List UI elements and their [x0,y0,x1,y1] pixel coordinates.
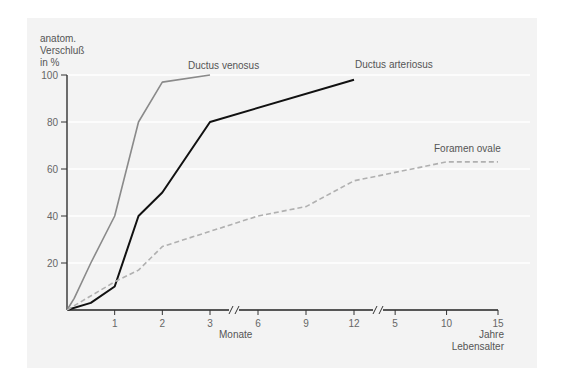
y-tick-label-20: 20 [47,258,59,269]
x-tick-label-5: 5 [392,318,398,329]
x-axis-label-years: Jahre [479,329,504,340]
x-tick-label-9: 9 [303,318,309,329]
legend-ductus-arteriosus: Ductus arteriosus [355,59,433,70]
legend-ductus-venosus: Ductus venosus [188,60,259,71]
y-axis-label-line-2: Verschluß [40,45,84,56]
x-axis-label-months: Monate [219,329,253,340]
y-tick-label-100: 100 [41,70,58,81]
y-tick-label-60: 60 [47,164,59,175]
y-axis-label-line-1: anatom. [40,33,76,44]
chart-panel [27,18,537,368]
legend-foramen-ovale: Foramen ovale [434,143,501,154]
y-axis-label-line-3: in % [40,57,60,68]
x-tick-label-2: 2 [160,318,166,329]
y-tick-label-40: 40 [47,211,59,222]
chart: 20406080100123691251015 anatom. Verschlu… [0,0,563,389]
x-tick-label-6: 6 [255,318,261,329]
y-tick-label-80: 80 [47,117,59,128]
x-tick-label-3: 3 [207,318,213,329]
x-tick-label-15: 15 [492,318,504,329]
x-tick-label-10: 10 [441,318,453,329]
x-tick-label-1: 1 [112,318,118,329]
x-tick-label-12: 12 [348,318,360,329]
x-axis-label-age: Lebensalter [452,341,505,352]
